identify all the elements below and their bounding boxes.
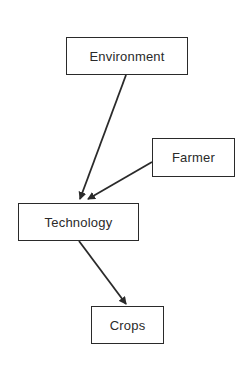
node-technology: Technology bbox=[18, 203, 139, 241]
node-farmer: Farmer bbox=[152, 138, 235, 177]
edge-technology-to-crops bbox=[79, 241, 126, 304]
node-environment: Environment bbox=[66, 37, 188, 75]
node-technology-label: Technology bbox=[45, 215, 113, 230]
node-farmer-label: Farmer bbox=[172, 150, 215, 165]
node-environment-label: Environment bbox=[89, 49, 164, 64]
edge-farmer-to-technology bbox=[88, 162, 152, 199]
node-crops-label: Crops bbox=[110, 318, 146, 333]
node-crops: Crops bbox=[91, 306, 164, 344]
